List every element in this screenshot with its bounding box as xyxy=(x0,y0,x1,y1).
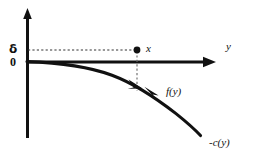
vertical-axis-arrowhead-icon xyxy=(23,8,32,19)
axis-tick-label-delta: δ xyxy=(9,43,17,55)
axis-tick-label-zero: 0 xyxy=(10,56,16,68)
curve-label-fy: f(y) xyxy=(166,86,181,97)
vertical-axis xyxy=(23,8,32,138)
horizontal-axis-label: y xyxy=(226,41,231,52)
point-x-label: x xyxy=(146,43,151,54)
diagram-canvas: δ 0 y x f(y) -c(y) xyxy=(0,0,256,163)
point-x-marker xyxy=(134,47,141,54)
horizontal-axis-arrowhead-icon xyxy=(203,57,216,67)
curve-label-negative-cy: -c(y) xyxy=(209,137,230,148)
curve-path xyxy=(27,62,201,136)
